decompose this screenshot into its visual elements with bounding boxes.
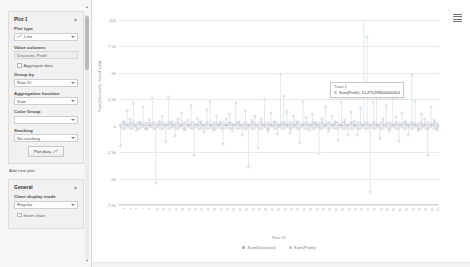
y-axis-tick-label: 0 xyxy=(114,123,116,128)
grid-line xyxy=(119,20,439,21)
data-series-layer xyxy=(119,20,439,205)
stacking-label: Stacking xyxy=(14,128,78,133)
plot-run-icon xyxy=(53,149,58,155)
sidebar-scrollbar-thumb[interactable] xyxy=(85,16,89,70)
grid-line xyxy=(119,126,439,127)
plot-type-value: Line xyxy=(24,34,69,39)
aggregation-function-label: Aggregation function xyxy=(14,91,78,96)
x-axis-tick-label: 37 xyxy=(238,207,243,212)
x-axis-tick-label: 55 xyxy=(295,207,300,212)
add-new-plot-link[interactable]: Add new plot xyxy=(9,168,86,173)
plot-1-panel-header[interactable]: Plot 1 ▲ xyxy=(14,16,78,22)
x-axis-tick-label: 83 xyxy=(385,207,390,212)
x-axis-tick-label: 15 xyxy=(167,207,172,212)
grid-line xyxy=(119,99,439,100)
chevron-down-icon xyxy=(71,82,75,84)
x-axis-tick-label: 75 xyxy=(359,207,364,212)
x-axis-tick-label: 63 xyxy=(321,207,326,212)
chevron-down-icon xyxy=(71,36,75,38)
value-columns-label: Value columns xyxy=(14,45,78,50)
scroll-down-arrow-icon[interactable]: ▼ xyxy=(85,258,90,263)
chevron-down-icon xyxy=(71,137,75,139)
legend-marker-icon xyxy=(289,246,292,249)
x-axis-tick-label: 77 xyxy=(366,207,371,212)
x-axis-tick-label: 93 xyxy=(417,207,422,212)
plot-1-title: Plot 1 xyxy=(14,16,28,22)
chart-footer-bar xyxy=(92,262,470,267)
x-axis-tick-label: 11 xyxy=(154,207,159,212)
hamburger-menu-icon[interactable] xyxy=(453,14,462,22)
x-axis-tick-label: 41 xyxy=(250,207,255,212)
settings-sidebar: ▲ ▼ Plot 1 ▲ Plot type Line Value column… xyxy=(0,0,92,267)
collapse-chevron-icon[interactable]: ▲ xyxy=(73,185,78,190)
y-axis-tick-label: 2.5k xyxy=(108,97,116,102)
plot-type-select[interactable]: Line xyxy=(14,33,78,41)
stacking-select[interactable]: No stacking xyxy=(14,134,78,142)
grid-line xyxy=(119,152,439,153)
x-axis-tick-label: 7 xyxy=(141,207,145,210)
x-axis-title: Row ID xyxy=(119,235,439,240)
tooltip-value-text: Sum(Profit): 15.475298000000001 xyxy=(339,90,400,95)
plot-configuration-app: ▲ ▼ Plot 1 ▲ Plot type Line Value column… xyxy=(0,0,470,267)
x-axis-tick-label: 9 xyxy=(147,207,151,210)
y-axis-tick-label: 5k xyxy=(112,70,116,75)
x-axis-tick-label: 53 xyxy=(289,207,294,212)
x-axis-tick-label: 1 xyxy=(122,207,126,210)
grid-line xyxy=(119,46,439,47)
chart-canvas: Sum(Discount), Sum(Profit) 10k7.5k5k2.5k… xyxy=(92,0,470,267)
y-axis-title: Sum(Discount), Sum(Profit) xyxy=(97,61,102,112)
x-axis-tick-label: 95 xyxy=(423,207,428,212)
legend-item-discount[interactable]: Sum(Discount) xyxy=(242,245,275,250)
x-axis-tick-label: 43 xyxy=(257,207,262,212)
value-columns-value: Discount, Profit xyxy=(17,53,75,58)
aggregation-function-select[interactable]: Sum xyxy=(14,97,78,105)
plot-type-label: Plot type xyxy=(14,26,78,31)
x-axis-tick-label: 21 xyxy=(186,207,191,212)
general-title: General xyxy=(14,184,33,190)
chevron-down-icon xyxy=(71,204,75,206)
y-axis-tick-label: -5k xyxy=(110,176,116,181)
scroll-up-arrow-icon[interactable]: ▲ xyxy=(85,4,90,9)
x-axis-tick-label: 69 xyxy=(340,207,345,212)
chart-legend: Sum(Discount) Sum(Profit) xyxy=(119,245,439,250)
x-axis-tick-label: 85 xyxy=(391,207,396,212)
x-axis-tick-label: 45 xyxy=(263,207,268,212)
general-panel: General ▲ Chart display mode Regular Ins… xyxy=(8,179,84,229)
group-by-label: Group by xyxy=(14,72,78,77)
aggregation-function-value: Sum xyxy=(17,99,69,104)
group-by-select[interactable]: Row ID xyxy=(14,79,78,87)
collapse-chevron-icon[interactable]: ▲ xyxy=(73,17,78,22)
x-axis-tick-label: 25 xyxy=(199,207,204,212)
x-axis-tick-label: 49 xyxy=(276,207,281,212)
x-axis-tick-label: 67 xyxy=(334,207,339,212)
color-group-select[interactable] xyxy=(14,116,78,124)
x-axis-tick-label: 59 xyxy=(308,207,313,212)
x-axis-tick-label: 33 xyxy=(225,207,230,212)
chart-display-mode-select[interactable]: Regular xyxy=(14,201,78,209)
legend-label-profit: Sum(Profit) xyxy=(294,245,316,250)
x-axis-tick-label: 17 xyxy=(174,207,179,212)
x-axis-tick-label: 13 xyxy=(161,207,166,212)
aggregate-data-checkbox[interactable] xyxy=(17,63,22,68)
legend-item-profit[interactable]: Sum(Profit) xyxy=(289,245,316,250)
x-axis-tick-labels: 1357911131517192123252729313335373941434… xyxy=(119,207,439,233)
x-axis-tick-label: 97 xyxy=(430,207,435,212)
value-columns-field[interactable]: Discount, Profit xyxy=(14,51,78,59)
aggregate-data-checkbox-row[interactable]: Aggregate data xyxy=(17,63,78,68)
x-axis-tick-label: 35 xyxy=(231,207,236,212)
insert-chart-checkbox-row[interactable]: Insert chart xyxy=(17,213,78,218)
x-axis-tick-label: 57 xyxy=(302,207,307,212)
general-panel-header[interactable]: General ▲ xyxy=(14,184,78,190)
y-axis-tick-label: -7.5k xyxy=(107,203,116,208)
chart-display-mode-label: Chart display mode xyxy=(14,194,78,199)
y-axis-tick-label: 7.5k xyxy=(108,44,116,49)
insert-chart-checkbox[interactable] xyxy=(17,213,22,218)
x-axis-tick-label: 71 xyxy=(346,207,351,212)
y-axis-tick-label: 10k xyxy=(109,18,116,23)
insert-chart-label: Insert chart xyxy=(24,213,46,218)
plot-data-button[interactable]: Plot data xyxy=(28,146,64,157)
y-axis-tick-label: -2.5k xyxy=(107,150,116,155)
legend-marker-icon xyxy=(242,246,245,249)
chevron-down-icon xyxy=(71,119,75,121)
data-point-tooltip: Trace 1 Sum(Profit): 15.475298000000001 xyxy=(330,82,404,98)
